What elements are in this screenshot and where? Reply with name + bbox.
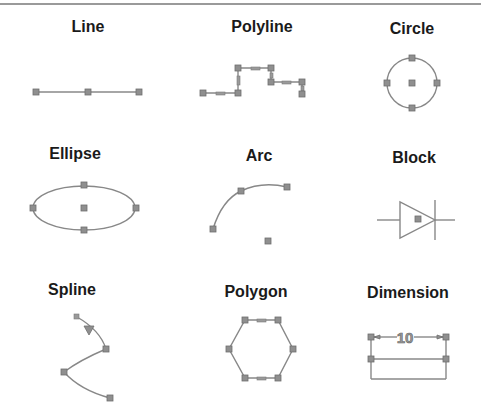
polyline-entity[interactable] bbox=[200, 65, 305, 97]
diagram-canvas: 10 bbox=[0, 0, 481, 417]
arrowhead-icon bbox=[374, 335, 380, 339]
grip-icon bbox=[268, 65, 274, 71]
grip-icon bbox=[107, 395, 113, 401]
grip-icon bbox=[268, 79, 274, 85]
polygon-entity[interactable] bbox=[226, 317, 296, 381]
grip-icon bbox=[368, 356, 374, 362]
grip-icon bbox=[299, 91, 305, 97]
grip-icon bbox=[284, 184, 290, 190]
grip-icon bbox=[290, 346, 296, 352]
grip-icon bbox=[81, 227, 87, 233]
arc-entity[interactable] bbox=[210, 184, 290, 244]
grip-icon bbox=[265, 238, 271, 244]
grip-icon bbox=[275, 317, 281, 323]
grip-icon bbox=[242, 375, 248, 381]
circle-entity[interactable] bbox=[384, 55, 440, 111]
grip-icon bbox=[103, 346, 109, 352]
line-entity[interactable] bbox=[33, 89, 142, 95]
grip-icon bbox=[299, 79, 305, 85]
grip-icon bbox=[133, 205, 139, 211]
grip-icon bbox=[242, 317, 248, 323]
grip-icon bbox=[210, 226, 216, 232]
grip-icon bbox=[81, 205, 87, 211]
grip-icon bbox=[61, 369, 67, 375]
grip-icon bbox=[33, 89, 39, 95]
grip-icon bbox=[238, 188, 244, 194]
ellipse-entity[interactable] bbox=[30, 182, 139, 233]
dimension-entity[interactable]: 10 bbox=[368, 329, 449, 379]
grip-icon bbox=[443, 356, 449, 362]
grip-icon bbox=[81, 182, 87, 188]
grip-icon bbox=[434, 80, 440, 86]
grip-icon bbox=[235, 65, 241, 71]
grip-icon bbox=[443, 334, 449, 340]
grip-icon bbox=[235, 90, 241, 96]
grip-icon bbox=[368, 334, 374, 340]
grip-icon bbox=[409, 105, 415, 111]
grip-icon bbox=[415, 216, 421, 222]
grip-icon bbox=[30, 205, 36, 211]
grip-icon bbox=[275, 375, 281, 381]
grip-icon bbox=[85, 89, 91, 95]
dimension-value: 10 bbox=[397, 329, 414, 346]
tangent-marker-icon bbox=[84, 326, 94, 335]
grip-icon bbox=[226, 346, 232, 352]
grip-icon bbox=[384, 80, 390, 86]
arrowhead-icon bbox=[437, 335, 443, 339]
grip-icon bbox=[409, 55, 415, 61]
grip-icon bbox=[409, 80, 415, 86]
spline-entity[interactable] bbox=[61, 314, 113, 401]
grip-icon bbox=[200, 90, 206, 96]
block-entity[interactable] bbox=[377, 200, 455, 240]
grip-icon bbox=[136, 89, 142, 95]
